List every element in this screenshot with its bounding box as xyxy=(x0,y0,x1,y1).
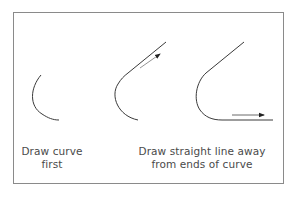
step-2-curve-with-line xyxy=(115,42,166,120)
step-1-caption: Draw curve first xyxy=(14,145,90,171)
step-1-curve xyxy=(33,75,60,120)
steps-2-3-caption: Draw straight line away from ends of cur… xyxy=(132,145,272,171)
shared-caption-line-1: Draw straight line away xyxy=(132,145,272,158)
step-3-curve-with-lines xyxy=(196,42,273,120)
shared-caption-line-2: from ends of curve xyxy=(132,158,272,171)
step-1-caption-line-2: first xyxy=(14,158,90,171)
step-1-caption-line-1: Draw curve xyxy=(14,145,90,158)
